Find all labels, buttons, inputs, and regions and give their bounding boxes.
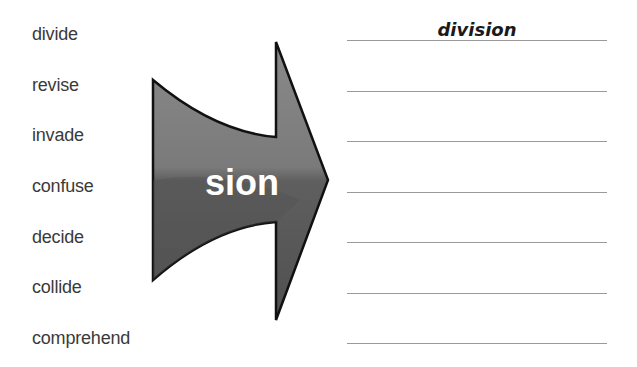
arrow-icon xyxy=(0,0,637,367)
answer-line[interactable] xyxy=(347,40,607,41)
answer-line[interactable] xyxy=(347,141,607,142)
answer-text: division xyxy=(347,19,607,40)
answer-line[interactable] xyxy=(347,293,607,294)
answer-line[interactable] xyxy=(347,91,607,92)
answer-line[interactable] xyxy=(347,192,607,193)
suffix-label: sion xyxy=(200,162,284,204)
answer-line[interactable] xyxy=(347,242,607,243)
answer-line[interactable] xyxy=(347,343,607,344)
